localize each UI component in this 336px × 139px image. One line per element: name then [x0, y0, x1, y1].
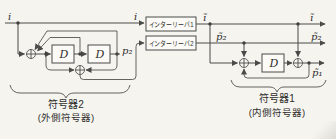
delay3-label: D [269, 57, 279, 70]
label-i-before-interleaver: i [134, 11, 137, 22]
brace-encoder2 [10, 85, 130, 98]
interleaver2-label: インターリーバ2 [149, 39, 194, 47]
turbo-encoder-diagram: インターリーバ1 インターリーバ2 i i p₂ [0, 0, 336, 139]
encoder2-subtitle: (外側符号器) [38, 112, 94, 123]
label-input-i: i [8, 11, 11, 22]
brace-encoder1 [231, 80, 326, 92]
wire-input-tap [18, 23, 25, 54]
scan-shadow-corner [310, 121, 336, 139]
encoder2-title: 符号器2 [48, 98, 84, 110]
scanned-diagram-page: インターリーバ1 インターリーバ2 i i p₂ [0, 0, 336, 139]
group-captions: 符号器2 (外側符号器) 符号器1 (内側符号器) [10, 80, 326, 123]
encoder1-subtitle: (内側符号器) [249, 107, 305, 118]
label-p2-tilde-out: p̃₂ [311, 31, 321, 42]
delay2-label: D [95, 48, 105, 61]
label-p1-tilde-out: p̃₁ [312, 67, 322, 78]
interleavers-block: インターリーバ1 インターリーバ2 [146, 17, 196, 50]
interleaver1-label: インターリーバ1 [149, 20, 194, 28]
label-i-tilde-out: ĩ [310, 12, 315, 23]
inner-encoder-block [210, 24, 324, 78]
label-i-tilde-mid: ĩ [203, 12, 208, 23]
delay1-label: D [59, 48, 69, 61]
label-p2-tilde-mid: p̃₂ [216, 31, 226, 42]
encoder1-title: 符号器1 [259, 92, 295, 104]
label-p2: p₂ [122, 45, 132, 56]
